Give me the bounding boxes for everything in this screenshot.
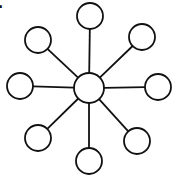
star-graph-diagram bbox=[0, 0, 177, 181]
edge-bottom-right bbox=[99, 99, 128, 131]
node-bottom bbox=[76, 148, 102, 174]
node-top-right bbox=[129, 24, 155, 50]
edge-left bbox=[33, 86, 74, 87]
edge-top bbox=[89, 29, 90, 73]
edge-right bbox=[104, 87, 145, 88]
edge-top-left bbox=[47, 49, 78, 78]
node-center bbox=[74, 73, 104, 103]
node-left bbox=[7, 73, 33, 99]
edge-bottom-left bbox=[47, 99, 78, 129]
node-right bbox=[145, 74, 171, 100]
edge-top-right bbox=[100, 46, 133, 78]
node-bottom-right bbox=[124, 128, 150, 154]
node-bottom-left bbox=[25, 125, 51, 151]
node-top-left bbox=[25, 27, 51, 53]
node-top bbox=[77, 3, 103, 29]
